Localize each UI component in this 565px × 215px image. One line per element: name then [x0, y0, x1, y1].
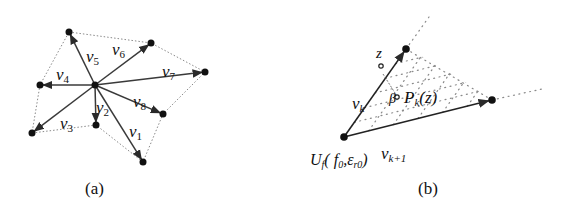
pk-label: Pk(z) [403, 88, 438, 108]
origin-label: Uf( f0,εr0) [310, 151, 368, 170]
dotted-grid [354, 12, 554, 131]
z-label: z [375, 45, 382, 61]
z-point [379, 64, 383, 68]
panel-b: zvkvk+1βPk(z)Uf( f0,εr0) (b) [310, 12, 554, 198]
vk1-label: vk+1 [381, 144, 406, 164]
label-v5: v5 [86, 47, 100, 67]
node-v2 [93, 122, 100, 129]
vk-tip-node [402, 45, 410, 53]
label-v3: v3 [60, 114, 74, 134]
panel-a-caption: (a) [85, 179, 104, 198]
label-v1: v1 [129, 122, 142, 142]
panel-a: v1v2v3v4v5v6v7v8 (a) [29, 29, 209, 199]
origin-node [340, 133, 348, 141]
ray-extension-vk [406, 17, 429, 49]
label-v2: v2 [96, 98, 109, 118]
beta-label: β [388, 91, 396, 106]
node-v8 [160, 111, 167, 118]
panel-b-labels: zvkvk+1βPk(z)Uf( f0,εr0) [310, 45, 438, 170]
node-v5 [66, 29, 73, 36]
node-v4 [37, 82, 44, 89]
figure-canvas: v1v2v3v4v5v6v7v8 (a) zvkvk+1βPk(z)Uf( f0… [0, 0, 565, 215]
label-v6: v6 [112, 40, 126, 60]
grid-line-parallel-vk [467, 18, 529, 106]
node-v6 [148, 40, 155, 47]
arrow-v7 [95, 72, 202, 85]
label-v4: v4 [56, 65, 70, 85]
panel-b-caption: (b) [418, 179, 438, 198]
grid-line-parallel-vk1 [396, 27, 544, 64]
center-node [92, 82, 99, 89]
node-v3 [29, 130, 36, 137]
node-v7 [202, 69, 209, 76]
label-v7: v7 [162, 62, 176, 82]
label-v8: v8 [133, 92, 147, 112]
ray-extension-vk1 [492, 89, 542, 100]
vk-label: vk [352, 94, 366, 114]
vk1-tip-node [488, 96, 496, 104]
node-v1 [140, 159, 147, 166]
